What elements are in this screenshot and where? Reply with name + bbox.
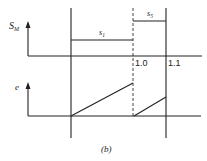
e-axis-label: e [15,82,19,92]
ramp-2 [134,97,166,116]
e-axis-arrow-icon [26,82,31,89]
timing-diagram: SM s1 s5 1.0 1.1 e (b) [0,0,207,161]
ramp-1 [71,83,133,116]
s5-label: s5 [147,9,153,19]
sm-axis-arrow-icon [26,21,31,28]
tick-label-1-1: 1.1 [168,58,181,68]
sm-axis-label: SM [9,20,20,32]
tick-label-1-0: 1.0 [135,58,148,68]
figure-caption: (b) [101,144,112,154]
s1-label: s1 [99,28,105,38]
